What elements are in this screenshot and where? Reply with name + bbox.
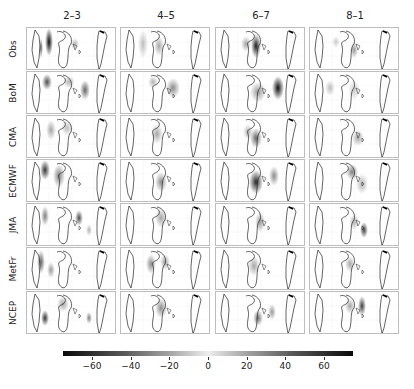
colorbar-tick <box>208 357 209 360</box>
map-panel <box>26 291 116 334</box>
row-label-text: NCEP <box>8 301 18 325</box>
map-panel <box>215 71 305 114</box>
row-label: Obs <box>2 27 24 71</box>
row-label: NCEP <box>2 291 24 335</box>
row-label: CMA <box>2 115 24 159</box>
colorbar-tick <box>92 357 93 360</box>
map-panel <box>26 159 116 202</box>
row-label-text: JMA <box>8 217 18 234</box>
map-panel <box>26 247 116 290</box>
column-title: 6–7 <box>215 10 307 21</box>
colorbar-tick-label: 40 <box>270 361 300 371</box>
map-panel <box>215 159 305 202</box>
map-panel <box>120 115 210 158</box>
map-panel <box>309 71 399 114</box>
map-panel <box>26 115 116 158</box>
column-title: 2–3 <box>26 10 118 21</box>
row-label-text: Obs <box>8 40 18 58</box>
map-panel <box>215 115 305 158</box>
map-panel <box>120 159 210 202</box>
row-label: JMA <box>2 203 24 247</box>
map-panel <box>120 203 210 246</box>
row-label: BoM <box>2 71 24 115</box>
column-title: 4–5 <box>120 10 212 21</box>
map-panel <box>309 159 399 202</box>
colorbar-tick-label: −60 <box>77 361 107 371</box>
map-panel <box>120 71 210 114</box>
map-panel <box>215 27 305 70</box>
map-panel <box>309 247 399 290</box>
colorbar <box>63 351 353 356</box>
colorbar-tick <box>285 357 286 360</box>
map-panel <box>26 27 116 70</box>
colorbar-tick <box>169 357 170 360</box>
map-panel <box>26 203 116 246</box>
map-panel <box>120 291 210 334</box>
map-panel <box>215 247 305 290</box>
colorbar-tick-label: 0 <box>193 361 223 371</box>
map-panel <box>120 27 210 70</box>
map-panel <box>26 71 116 114</box>
row-label-text: BoM <box>8 83 18 102</box>
map-panel <box>215 203 305 246</box>
colorbar-tick <box>324 357 325 360</box>
colorbar-tick <box>247 357 248 360</box>
column-title: 8–1 <box>309 10 401 21</box>
row-label: MetFr <box>2 247 24 291</box>
row-label: ECMWF <box>2 159 24 203</box>
colorbar-tick-label: −20 <box>154 361 184 371</box>
row-label-text: MetFr <box>8 256 18 281</box>
map-panel <box>215 291 305 334</box>
colorbar-tick-label: −40 <box>116 361 146 371</box>
row-label-text: CMA <box>8 127 18 147</box>
map-panel <box>309 291 399 334</box>
map-panel <box>309 115 399 158</box>
map-panel <box>309 203 399 246</box>
colorbar-tick-label: 60 <box>309 361 339 371</box>
colorbar-tick-label: 20 <box>232 361 262 371</box>
map-panel <box>120 247 210 290</box>
map-panel <box>309 27 399 70</box>
row-label-text: ECMWF <box>8 164 18 198</box>
colorbar-tick <box>131 357 132 360</box>
